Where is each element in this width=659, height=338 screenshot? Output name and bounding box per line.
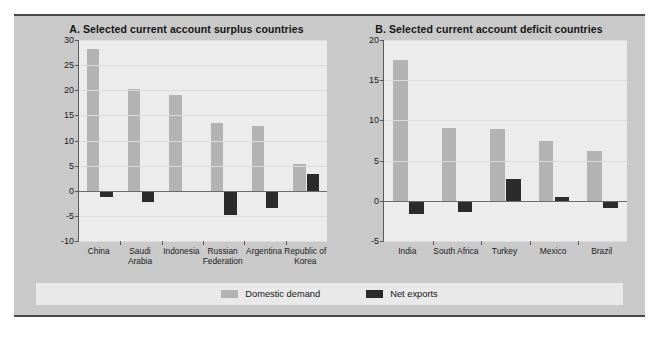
y-axis-tick-label: 5 — [374, 156, 379, 166]
y-gridline — [79, 115, 327, 116]
panel-b-bars — [384, 40, 627, 241]
y-tick-mark — [75, 241, 79, 242]
y-gridline — [384, 40, 627, 41]
x-axis-category-label-line: Korea — [283, 257, 328, 267]
bar-net-exports — [307, 174, 319, 191]
y-axis-tick-label: 15 — [64, 110, 74, 120]
x-axis-category-label: Argentina — [242, 247, 287, 257]
charts-container: A. Selected current account surplus coun… — [14, 16, 645, 274]
x-axis-category-label: China — [76, 247, 121, 257]
x-axis-category-label: India — [381, 247, 433, 257]
panel-a-plot-area: -10-5051015202530 — [78, 40, 327, 242]
y-tick-mark — [75, 141, 79, 142]
y-tick-mark — [75, 90, 79, 91]
bar-net-exports — [266, 191, 278, 208]
bar-domestic-demand — [442, 128, 457, 201]
bar-net-exports — [506, 179, 521, 201]
bar-domestic-demand — [539, 141, 554, 200]
zero-line — [384, 201, 627, 202]
y-tick-mark — [75, 40, 79, 41]
y-axis-tick-label: 0 — [69, 186, 74, 196]
x-axis-category-label-line: Arabia — [118, 257, 163, 267]
bar-net-exports — [224, 191, 236, 215]
y-gridline — [79, 166, 327, 167]
y-tick-mark — [75, 216, 79, 217]
panel-b-x-axis-labels: IndiaSouth AfricaTurkeyMexicoBrazil — [383, 245, 627, 273]
y-gridline — [384, 241, 627, 242]
x-axis-category-label-line: Turkey — [478, 247, 530, 257]
x-axis-category-label: South Africa — [430, 247, 482, 257]
panel-b-title: B. Selected current account deficit coun… — [339, 23, 639, 35]
x-axis-category-label: SaudiArabia — [118, 247, 163, 266]
x-axis-category-label-line: Federation — [200, 257, 245, 267]
panel-a-x-axis-labels: ChinaSaudiArabiaIndonesiaRussianFederati… — [78, 245, 327, 273]
y-axis-tick-label: 15 — [369, 75, 379, 85]
legend-label: Net exports — [390, 289, 438, 299]
x-axis-category-label-line: India — [381, 247, 433, 257]
legend-item: Net exports — [366, 289, 438, 299]
bar-domestic-demand — [490, 129, 505, 201]
y-tick-mark — [380, 80, 384, 81]
bar-domestic-demand — [393, 60, 408, 201]
x-axis-category-label-line: Argentina — [242, 247, 287, 257]
bar-domestic-demand — [252, 126, 264, 191]
legend-item: Domestic demand — [221, 289, 320, 299]
y-tick-mark — [380, 241, 384, 242]
legend-swatch-net-exports — [366, 290, 383, 298]
y-axis-tick-label: 25 — [64, 60, 74, 70]
bar-net-exports — [458, 201, 473, 212]
y-gridline — [79, 65, 327, 66]
x-axis-category-label: RussianFederation — [200, 247, 245, 266]
x-axis-category-label-line: Indonesia — [159, 247, 204, 257]
legend-swatch-domestic-demand — [221, 290, 238, 298]
y-axis-tick-label: -5 — [371, 236, 379, 246]
legend-items: Domestic demandNet exports — [36, 283, 623, 305]
x-axis-category-label: Indonesia — [159, 247, 204, 257]
x-axis-category-label: Mexico — [527, 247, 579, 257]
y-axis-tick-label: 0 — [374, 196, 379, 206]
x-axis-category-label-line: Mexico — [527, 247, 579, 257]
y-gridline — [384, 161, 627, 162]
bar-domestic-demand — [587, 151, 602, 201]
y-gridline — [79, 40, 327, 41]
bar-net-exports — [409, 201, 424, 214]
bar-domestic-demand — [169, 95, 181, 190]
y-gridline — [79, 216, 327, 217]
chart-legend: Domestic demandNet exports — [36, 283, 623, 305]
y-axis-tick-label: -10 — [61, 236, 74, 246]
chart-panel-a: A. Selected current account surplus coun… — [34, 16, 339, 274]
y-tick-mark — [75, 166, 79, 167]
y-tick-mark — [380, 161, 384, 162]
y-gridline — [384, 80, 627, 81]
y-axis-tick-label: 10 — [64, 136, 74, 146]
y-gridline — [79, 90, 327, 91]
y-tick-mark — [380, 120, 384, 121]
bar-domestic-demand — [87, 49, 99, 191]
y-axis-tick-label: 10 — [369, 115, 379, 125]
zero-line — [79, 191, 327, 192]
panel-a-title: A. Selected current account surplus coun… — [34, 23, 339, 35]
y-gridline — [384, 120, 627, 121]
bar-domestic-demand — [211, 123, 223, 190]
x-axis-category-label: Turkey — [478, 247, 530, 257]
figure-panel: A. Selected current account surplus coun… — [14, 14, 645, 317]
y-axis-tick-label: 20 — [64, 85, 74, 95]
x-axis-category-label-line: Brazil — [575, 247, 627, 257]
chart-panel-b: B. Selected current account deficit coun… — [339, 16, 639, 274]
x-axis-category-label: Brazil — [575, 247, 627, 257]
y-axis-tick-label: 5 — [69, 161, 74, 171]
y-gridline — [79, 141, 327, 142]
x-axis-category-label: Republic ofKorea — [283, 247, 328, 266]
y-axis-tick-label: -5 — [66, 211, 74, 221]
y-axis-tick-label: 30 — [64, 35, 74, 45]
y-tick-mark — [75, 65, 79, 66]
y-tick-mark — [380, 40, 384, 41]
y-tick-mark — [75, 115, 79, 116]
x-axis-category-label-line: South Africa — [430, 247, 482, 257]
panel-b-plot-area: -505101520 — [383, 40, 627, 242]
x-axis-category-label-line: China — [76, 247, 121, 257]
bar-net-exports — [142, 191, 154, 202]
legend-label: Domestic demand — [245, 289, 320, 299]
bar-domestic-demand — [293, 164, 305, 191]
y-axis-tick-label: 20 — [369, 35, 379, 45]
